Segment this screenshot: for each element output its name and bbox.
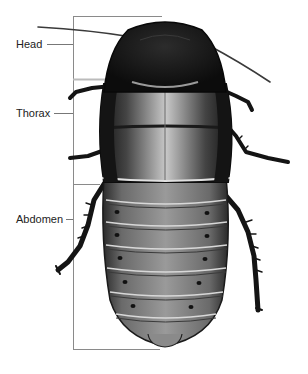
leg-hind-left: [58, 184, 104, 270]
thorax-shape: [100, 84, 232, 182]
head-shape: [104, 22, 226, 92]
label-thorax: Thorax: [16, 107, 50, 119]
antenna-left: [38, 27, 132, 37]
label-head: Head: [16, 38, 42, 50]
cerci: [148, 334, 182, 347]
leader-line-thorax: [54, 113, 73, 114]
anatomy-diagram: Head Thorax Abdomen: [0, 0, 308, 374]
abdomen-shape: [103, 176, 228, 347]
leader-line-abdomen: [66, 219, 73, 220]
label-abdomen: Abdomen: [16, 213, 63, 225]
leader-line-head: [47, 44, 73, 45]
cockroach-illustration: [0, 0, 308, 374]
leg-hind-right: [226, 196, 258, 310]
